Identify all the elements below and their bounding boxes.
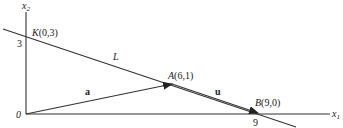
vector-u-label: u	[215, 86, 221, 97]
x-axis-label: x1	[331, 108, 340, 121]
y-axis-label: x2	[21, 0, 30, 13]
point-K-label: K(0,3)	[31, 27, 58, 39]
point-B-label: B(9,0)	[255, 97, 280, 109]
origin-label: 0	[16, 109, 21, 120]
vector-a	[26, 84, 172, 114]
line-L-label: L	[112, 51, 119, 62]
x-tick-9: 9	[253, 117, 258, 128]
y-tick-3: 3	[17, 38, 22, 49]
line-L	[3, 29, 296, 127]
vector-line-diagram: x2 x1 0 3 9 K(0,3) A(6,1) B(9,0) L a u	[0, 0, 343, 128]
vector-a-label: a	[85, 86, 90, 97]
point-A-label: A(6,1)	[167, 70, 193, 82]
